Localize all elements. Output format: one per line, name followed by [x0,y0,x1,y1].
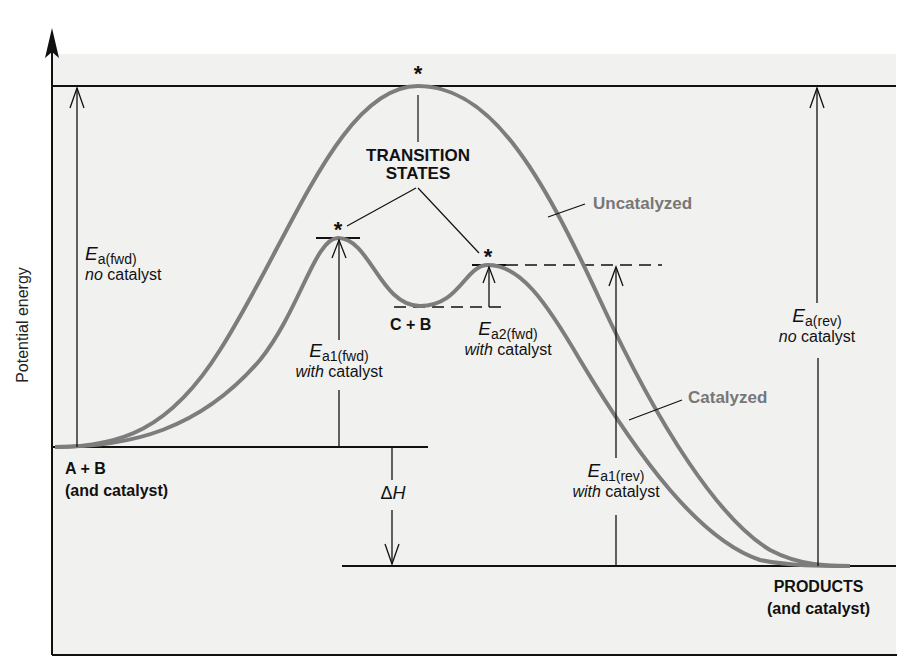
uncatalyzed-label: Uncatalyzed [593,194,692,213]
y-axis-label: Potential energy [14,250,32,400]
delta-h-label: ΔH [380,484,405,503]
ts-marker-catalyzed-1: * [334,220,343,239]
catalyzed-label: Catalyzed [688,388,767,407]
intermediate-label: C + B [390,315,431,334]
ts-marker-uncatalyzed: * [414,64,423,83]
ea-rev-label: Ea(rev) no catalyst [779,306,855,346]
ea1-fwd-label: Ea1(fwd) with catalyst [295,341,382,381]
reactants-label: A + B (and catalyst) [65,458,168,502]
ea1-rev-label: Ea1(rev) with catalyst [572,461,659,501]
products-label: PRODUCTS (and catalyst) [767,576,870,620]
ea2-fwd-label: Ea2(fwd) with catalyst [464,319,551,359]
ts-marker-catalyzed-2: * [484,247,493,266]
ea-fwd-label: Ea(fwd) no catalyst [85,244,161,284]
transition-states-label: TRANSITION STATES [366,147,470,183]
